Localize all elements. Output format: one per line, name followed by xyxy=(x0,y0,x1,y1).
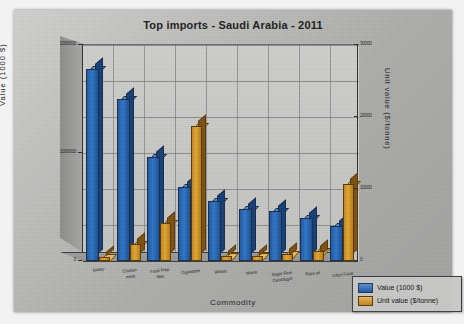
bar-value-wheat xyxy=(208,203,219,261)
bar-unit-value-cigarettes xyxy=(191,128,200,261)
bar-unit-value-chicken-meat xyxy=(130,246,139,261)
y-axis-title: Value (1000 $) xyxy=(0,0,7,106)
bar-value-barley xyxy=(86,71,97,261)
tick-mark xyxy=(354,44,358,45)
bar-face xyxy=(252,256,263,261)
bar-face xyxy=(191,126,202,261)
bar-face xyxy=(343,184,354,261)
bar-face xyxy=(313,251,324,261)
tick-mark xyxy=(354,116,358,117)
bar-face xyxy=(86,69,99,261)
chart-print: Top imports - Saudi Arabia - 2011 xyxy=(14,10,452,312)
left-wall-3d xyxy=(60,36,84,253)
bar-face xyxy=(269,211,282,261)
bar-value-food-prep-nes xyxy=(147,159,158,261)
chart-title: Top imports - Saudi Arabia - 2011 xyxy=(14,19,452,31)
bar-group xyxy=(83,36,358,261)
y2-tick-label: 30000 xyxy=(360,41,372,46)
bar-unit-value-palm-oil xyxy=(313,253,322,261)
bar-value-maize xyxy=(239,211,250,261)
bar-value-sugar-raw-centrifugal xyxy=(269,213,280,261)
baseline xyxy=(83,261,358,262)
legend-item-unit-value: Unit value ($/tonne) xyxy=(358,295,438,306)
bar-face xyxy=(300,218,313,261)
bar-unit-value-infant-food xyxy=(343,186,352,261)
tick-mark xyxy=(78,152,82,153)
photo-background: Top imports - Saudi Arabia - 2011 xyxy=(0,0,464,324)
y2-axis-title: Unit value ($/tonne) xyxy=(383,68,392,198)
tick-mark xyxy=(354,260,358,261)
bar-face xyxy=(178,187,191,261)
legend-label-unit-value: Unit value ($/tonne) xyxy=(377,297,438,304)
bar-unit-value-sugar-raw-centrifugal xyxy=(282,256,291,261)
bar-unit-value-maize xyxy=(252,258,261,261)
y-tick-label: 1000000 xyxy=(38,149,76,154)
bar-unit-value-food-prep-nes xyxy=(160,225,169,261)
plot-area: 2000000 1000000 0 30000 20000 10000 0 Ba… xyxy=(60,36,358,268)
tick-mark xyxy=(354,188,358,189)
tick-mark xyxy=(78,44,82,45)
bar-face xyxy=(117,99,130,261)
bar-value-infant-food xyxy=(330,228,341,261)
tick-mark xyxy=(78,260,82,261)
y-tick-label: 0 xyxy=(38,257,76,262)
bar-unit-value-barley xyxy=(99,259,108,261)
bar-unit-value-wheat xyxy=(221,258,230,261)
bar-face xyxy=(282,254,293,261)
legend-item-value: Value (1000 $) xyxy=(358,282,422,293)
bar-face xyxy=(330,226,343,261)
legend-swatch-value xyxy=(358,283,373,293)
legend-swatch-unit-value xyxy=(358,296,373,306)
bar-value-palm-oil xyxy=(300,220,311,261)
bar-face xyxy=(99,257,110,261)
bar-face xyxy=(208,201,221,261)
y2-tick-label: 20000 xyxy=(360,113,372,118)
bar-face xyxy=(239,209,252,261)
bar-face xyxy=(147,157,160,261)
bar-face xyxy=(221,256,232,261)
bar-face xyxy=(130,244,141,261)
y2-tick-label: 10000 xyxy=(360,185,372,190)
bar-face xyxy=(160,223,171,261)
y-tick-label: 2000000 xyxy=(38,41,76,46)
legend-label-value: Value (1000 $) xyxy=(377,284,422,291)
bar-value-chicken-meat xyxy=(117,101,128,261)
y2-tick-label: 0 xyxy=(360,257,362,262)
bar-value-cigarettes xyxy=(178,189,189,261)
legend: Value (1000 $) Unit value ($/tonne) xyxy=(352,276,462,312)
